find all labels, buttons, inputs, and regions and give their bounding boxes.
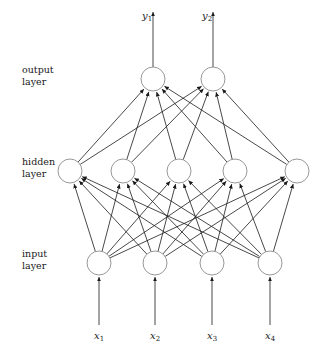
- layer-label-input-line2: layer: [22, 260, 47, 272]
- input-arrows: [99, 277, 270, 325]
- output-variable-symbol-2: y: [202, 10, 208, 21]
- input-variable-subscript-4: 4: [271, 335, 275, 343]
- layer-label-hidden-line2: layer: [22, 168, 55, 180]
- neuron-hidden-3: [167, 159, 191, 183]
- neuron-hidden-5: [285, 159, 309, 183]
- edges-hidden-to-output: [78, 86, 289, 164]
- input-variable-symbol-4: x: [265, 330, 271, 341]
- edges-input-to-hidden: [74, 177, 293, 258]
- input-variable-subscript-3: 3: [213, 335, 217, 343]
- layer-label-input-line1: input: [22, 248, 47, 260]
- input-variable-symbol-1: x: [94, 330, 100, 341]
- output-variable-label-2: y2: [202, 10, 212, 21]
- input-variable-symbol-3: x: [207, 330, 213, 341]
- layer-label-hidden-line1: hidden: [22, 156, 55, 168]
- neuron-hidden-2: [111, 159, 135, 183]
- layer-label-input: input layer: [22, 248, 47, 272]
- layer-label-hidden: hidden layer: [22, 156, 55, 180]
- output-variable-subscript-2: 2: [208, 15, 212, 23]
- layer-label-output: output layer: [22, 64, 54, 88]
- input-variable-label-1: x1: [94, 330, 104, 341]
- input-variable-symbol-2: x: [150, 330, 156, 341]
- neuron-hidden-1: [58, 159, 82, 183]
- network-graphics: [0, 0, 336, 361]
- neuron-input-1: [87, 251, 111, 275]
- output-variable-symbol-1: y: [142, 10, 148, 21]
- input-variable-label-2: x2: [150, 330, 160, 341]
- input-variable-label-3: x3: [207, 330, 217, 341]
- neuron-input-3: [200, 251, 224, 275]
- output-variable-subscript-1: 1: [148, 15, 152, 23]
- neural-network-diagram: output layer hidden layer input layer y1…: [0, 0, 336, 361]
- layer-label-output-line1: output: [22, 64, 54, 76]
- neuron-input-2: [143, 251, 167, 275]
- layer-label-output-line2: layer: [22, 76, 54, 88]
- neuron-output-2: [201, 67, 225, 91]
- neuron-input-4: [258, 251, 282, 275]
- output-variable-label-1: y1: [142, 10, 152, 21]
- input-variable-subscript-2: 2: [156, 335, 160, 343]
- input-variable-subscript-1: 1: [100, 335, 104, 343]
- neuron-hidden-4: [223, 159, 247, 183]
- input-variable-label-4: x4: [265, 330, 275, 341]
- neuron-output-1: [141, 67, 165, 91]
